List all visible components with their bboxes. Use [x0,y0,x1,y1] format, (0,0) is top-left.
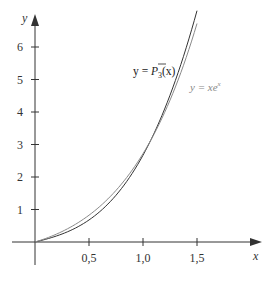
y-axis-arrow-icon [31,14,39,26]
x-tick-label: 1,5 [190,251,205,265]
x-axis-label: x [252,249,259,263]
y-ticks: 123456 [17,40,39,217]
curve-p3 [35,11,197,242]
p3-curve-label: y = P3(x) [133,65,176,80]
x-tick-label: 1,0 [136,251,151,265]
plot-area: 0,51,01,5 123456 x y y = P3(x) y = xex [0,0,269,281]
y-tick-label: 5 [17,73,23,87]
y-tick-label: 4 [17,105,23,119]
x-tick-label: 0,5 [82,251,97,265]
xex-curve-label: y = xex [189,80,222,93]
y-axis-label: y [21,11,28,25]
y-tick-label: 3 [17,138,23,152]
x-axis-arrow-icon [250,238,262,246]
y-tick-label: 6 [17,40,23,54]
curve-xex [35,24,197,242]
chart-figure: 0,51,01,5 123456 x y y = P3(x) y = xex [0,0,269,281]
y-tick-label: 2 [17,170,23,184]
y-tick-label: 1 [17,203,23,217]
